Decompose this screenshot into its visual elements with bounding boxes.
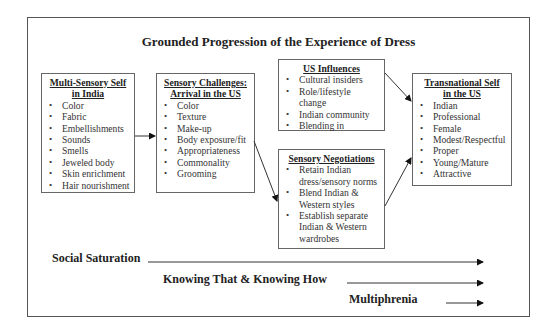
list-item: Appropriateness bbox=[161, 145, 250, 156]
list-item: Jeweled body bbox=[46, 157, 130, 168]
list-item: Sounds bbox=[46, 134, 130, 145]
box-title: Arrival in the US bbox=[161, 88, 250, 99]
list-item: Proper bbox=[417, 145, 507, 156]
box-title: in India bbox=[46, 88, 130, 99]
flow-label-social-saturation: Social Saturation bbox=[52, 251, 140, 266]
box-title: Sensory Challenges: bbox=[161, 77, 250, 88]
box-title: Multi-Sensory Self bbox=[46, 77, 130, 88]
list-item: Color bbox=[46, 100, 130, 111]
box-list: Color Fabric Embellishments Sounds Smell… bbox=[46, 100, 130, 191]
list-item: Smells bbox=[46, 145, 130, 156]
list-item: Attractive bbox=[417, 168, 507, 179]
list-item: Commonality bbox=[161, 157, 250, 168]
list-item: Indian community bbox=[283, 109, 380, 120]
list-item: Body exposure/fit bbox=[161, 134, 250, 145]
box-multi-sensory-self-india: Multi-Sensory Self in India Color Fabric… bbox=[41, 73, 135, 193]
flow-label-knowing: Knowing That & Knowing How bbox=[163, 272, 327, 287]
list-item: Skin enrichment bbox=[46, 168, 130, 179]
list-item: Professional bbox=[417, 111, 507, 122]
box-sensory-challenges: Sensory Challenges: Arrival in the US Co… bbox=[156, 73, 255, 193]
box-title: Sensory Negotiations bbox=[283, 153, 380, 164]
list-item: Female bbox=[417, 123, 507, 134]
list-item: Blend Indian & Western styles bbox=[283, 187, 380, 210]
flow-label-multiphrenia: Multiphrenia bbox=[349, 292, 417, 307]
list-item: Embellishments bbox=[46, 123, 130, 134]
list-item: Grooming bbox=[161, 168, 250, 179]
list-item: Make-up bbox=[161, 123, 250, 134]
box-us-influences: US Influences Cultural insiders Role/lif… bbox=[278, 59, 385, 131]
box-title: Transnational Self bbox=[417, 77, 507, 88]
list-item: Texture bbox=[161, 111, 250, 122]
list-item: Role/lifestyle change bbox=[283, 86, 380, 109]
box-list: Retain Indian dress/sensory norms Blend … bbox=[283, 164, 380, 244]
list-item: Color bbox=[161, 100, 250, 111]
list-item: Fabric bbox=[46, 111, 130, 122]
box-transnational-self: Transnational Self in the US Indian Prof… bbox=[412, 73, 512, 186]
list-item: Modest/Respectful bbox=[417, 134, 507, 145]
list-item: Cultural insiders bbox=[283, 74, 380, 85]
list-item: Blending in bbox=[283, 120, 380, 131]
box-sensory-negotiations: Sensory Negotiations Retain Indian dress… bbox=[278, 149, 385, 249]
list-item: Retain Indian dress/sensory norms bbox=[283, 164, 380, 187]
box-list: Color Texture Make-up Body exposure/fit … bbox=[161, 100, 250, 180]
list-item: Establish separate Indian & Western ward… bbox=[283, 210, 380, 244]
diagram-title: Grounded Progression of the Experience o… bbox=[0, 34, 557, 50]
list-item: Indian bbox=[417, 100, 507, 111]
box-title: in the US bbox=[417, 88, 507, 99]
list-item: Hair nourishment bbox=[46, 180, 130, 191]
box-title: US Influences bbox=[283, 63, 380, 74]
box-list: Cultural insiders Role/lifestyle change … bbox=[283, 74, 380, 131]
box-list: Indian Professional Female Modest/Respec… bbox=[417, 100, 507, 180]
list-item: Young/Mature bbox=[417, 157, 507, 168]
